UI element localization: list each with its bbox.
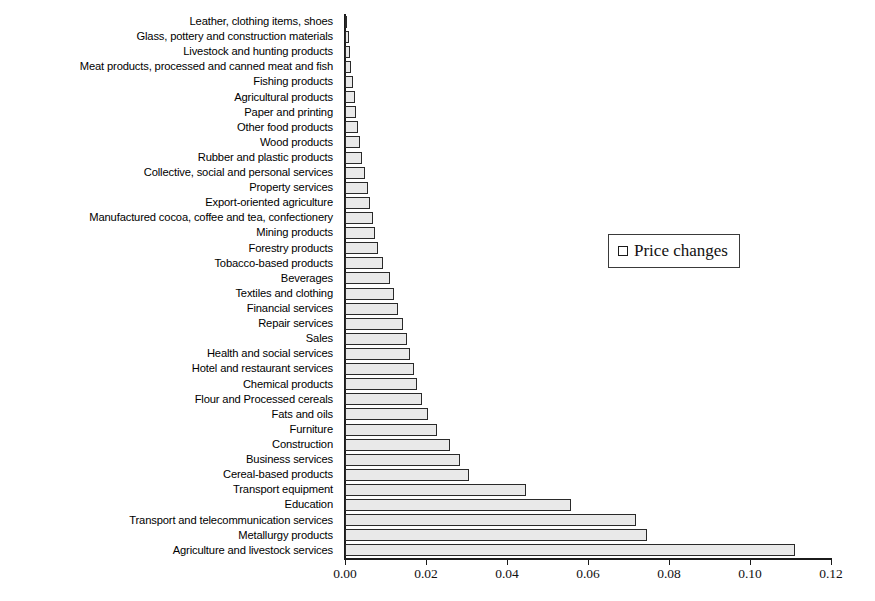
bar: [345, 318, 403, 330]
category-axis-labels: Leather, clothing items, shoesGlass, pot…: [0, 14, 338, 558]
bar-row: [345, 543, 831, 558]
value-axis-tick: [507, 558, 508, 565]
category-label: Education: [0, 498, 338, 513]
legend-square-icon: [618, 246, 628, 256]
bar: [345, 439, 450, 451]
bar-row: [345, 407, 831, 422]
category-label: Textiles and clothing: [0, 286, 338, 301]
bar: [345, 303, 398, 315]
bar-row: [345, 180, 831, 195]
bar: [345, 31, 349, 43]
bar: [345, 46, 350, 58]
bar-row: [345, 120, 831, 135]
bar: [345, 106, 356, 118]
value-axis-tick: [669, 558, 670, 565]
category-label: Rubber and plastic products: [0, 150, 338, 165]
category-label: Meat products, processed and canned meat…: [0, 59, 338, 74]
bar: [345, 499, 571, 511]
bar-row: [345, 301, 831, 316]
bar-row: [345, 105, 831, 120]
bar: [345, 514, 636, 526]
category-label: Transport equipment: [0, 482, 338, 497]
bar: [345, 16, 347, 28]
bar-row: [345, 467, 831, 482]
bar-row: [345, 195, 831, 210]
bar-row: [345, 331, 831, 346]
value-axis-tick-label: 0.10: [738, 566, 762, 582]
bar: [345, 76, 353, 88]
bar: [345, 288, 394, 300]
bar: [345, 333, 407, 345]
category-label: Livestock and hunting products: [0, 44, 338, 59]
price-changes-bar-chart: Leather, clothing items, shoesGlass, pot…: [0, 0, 875, 601]
bar-row: [345, 422, 831, 437]
category-label: Manufactured cocoa, coffee and tea, conf…: [0, 210, 338, 225]
bar: [345, 212, 373, 224]
bar: [345, 454, 460, 466]
category-label: Business services: [0, 452, 338, 467]
category-label: Fats and oils: [0, 407, 338, 422]
value-axis-tick: [588, 558, 589, 565]
bar-row: [345, 482, 831, 497]
bar: [345, 363, 414, 375]
category-label: Agricultural products: [0, 90, 338, 105]
legend-entry-label: Price changes: [634, 241, 728, 261]
category-label: Sales: [0, 331, 338, 346]
bar-row: [345, 150, 831, 165]
category-label: Hotel and restaurant services: [0, 362, 338, 377]
bar-row: [345, 59, 831, 74]
bar-series-price-changes: [345, 14, 831, 558]
value-axis-tick: [345, 558, 346, 565]
bar: [345, 272, 390, 284]
category-label: Furniture: [0, 422, 338, 437]
bar: [345, 529, 647, 541]
category-label: Chemical products: [0, 377, 338, 392]
bar: [345, 182, 368, 194]
bar-row: [345, 135, 831, 150]
bar: [345, 484, 526, 496]
bar: [345, 152, 362, 164]
value-axis-tick-label: 0.12: [819, 566, 843, 582]
category-label: Other food products: [0, 120, 338, 135]
bar-row: [345, 226, 831, 241]
bar: [345, 227, 375, 239]
bar: [345, 136, 360, 148]
bar-row: [345, 241, 831, 256]
bar-row: [345, 528, 831, 543]
bar-row: [345, 437, 831, 452]
category-label: Paper and printing: [0, 105, 338, 120]
bar: [345, 408, 428, 420]
category-label: Collective, social and personal services: [0, 165, 338, 180]
bar-row: [345, 498, 831, 513]
category-label: Construction: [0, 437, 338, 452]
bar: [345, 61, 351, 73]
bar: [345, 197, 370, 209]
value-axis-tick-label: 0.08: [657, 566, 681, 582]
value-axis-tick: [750, 558, 751, 565]
bar: [345, 424, 437, 436]
bar: [345, 167, 365, 179]
bar-row: [345, 392, 831, 407]
bar-row: [345, 452, 831, 467]
bar: [345, 393, 422, 405]
bar-row: [345, 29, 831, 44]
value-axis-tick-label: 0.06: [576, 566, 600, 582]
value-axis-tick-label: 0.04: [495, 566, 519, 582]
bar-row: [345, 271, 831, 286]
bar-row: [345, 286, 831, 301]
category-label: Glass, pottery and construction material…: [0, 29, 338, 44]
category-label: Tobacco-based products: [0, 256, 338, 271]
bar: [345, 348, 410, 360]
bar: [345, 378, 417, 390]
category-label: Health and social services: [0, 346, 338, 361]
bar-row: [345, 210, 831, 225]
bar-row: [345, 377, 831, 392]
value-axis-tick: [426, 558, 427, 565]
bar-row: [345, 346, 831, 361]
category-label: Forestry products: [0, 241, 338, 256]
plot-area: [345, 14, 831, 558]
category-label: Fishing products: [0, 74, 338, 89]
category-label: Cereal-based products: [0, 467, 338, 482]
bar: [345, 257, 383, 269]
bar-row: [345, 44, 831, 59]
